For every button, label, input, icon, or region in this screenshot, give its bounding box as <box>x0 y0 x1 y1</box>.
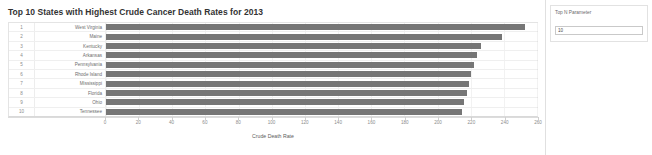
row-rank: 10 <box>9 108 35 116</box>
bar[interactable] <box>106 62 474 68</box>
row-state-label: Kentucky <box>35 42 106 50</box>
gridline <box>537 108 538 116</box>
bar-track <box>106 79 537 87</box>
bar-track <box>106 42 537 50</box>
bar-track <box>106 23 537 31</box>
gridline <box>504 98 505 106</box>
bar[interactable] <box>106 43 481 49</box>
parameter-pane: Top N Parameter <box>545 0 652 155</box>
bar-track <box>106 108 537 116</box>
row-rank: 7 <box>9 79 35 87</box>
row-bar-cell <box>106 23 537 31</box>
row-bar-cell <box>106 98 537 106</box>
top-n-parameter-label: Top N Parameter <box>555 10 643 15</box>
row-state-label: Ohio <box>35 98 106 106</box>
gridline <box>504 51 505 59</box>
gridline <box>471 108 472 116</box>
gridline <box>537 51 538 59</box>
axis-tick-label: 120 <box>301 120 309 125</box>
row-bar-cell <box>106 70 537 78</box>
gridline <box>471 89 472 97</box>
bar[interactable] <box>106 71 471 77</box>
bar-track <box>106 32 537 40</box>
row-state-label: Mississippi <box>35 79 106 87</box>
row-state-label: Maine <box>35 32 106 40</box>
row-rank: 6 <box>9 70 35 78</box>
row-state-label: Tennessee <box>35 108 106 116</box>
bar[interactable] <box>106 24 525 30</box>
top-n-parameter-card: Top N Parameter <box>550 5 648 42</box>
row-rank: 5 <box>9 61 35 69</box>
gridline <box>471 70 472 78</box>
gridline <box>504 70 505 78</box>
gridline <box>537 70 538 78</box>
bar-track <box>106 70 537 78</box>
bar-chart: 1West Virginia2Maine3Kentucky4Arkansas5P… <box>8 22 538 117</box>
row-bar-cell <box>106 108 537 116</box>
gridline <box>504 61 505 69</box>
top-n-parameter-input[interactable] <box>555 26 643 35</box>
row-rank: 9 <box>9 98 35 106</box>
row-rank: 3 <box>9 42 35 50</box>
gridline <box>504 108 505 116</box>
axis-tick-label: 60 <box>202 120 207 125</box>
gridline <box>471 98 472 106</box>
bar[interactable] <box>106 34 502 40</box>
axis-tick-label: 220 <box>468 120 476 125</box>
row-bar-cell <box>106 32 537 40</box>
table-row[interactable]: 1West Virginia <box>9 23 537 32</box>
gridline <box>537 32 538 40</box>
bar-track <box>106 89 537 97</box>
axis-tick-label: 180 <box>401 120 409 125</box>
axis-tick-label: 260 <box>534 120 542 125</box>
bar[interactable] <box>106 81 469 87</box>
row-bar-cell <box>106 79 537 87</box>
gridline <box>504 89 505 97</box>
x-axis-title: Crude Death Rate <box>8 133 538 139</box>
bar[interactable] <box>106 52 477 58</box>
axis-tick-label: 100 <box>268 120 276 125</box>
bar[interactable] <box>106 90 467 96</box>
bar[interactable] <box>106 99 464 105</box>
row-bar-cell <box>106 89 537 97</box>
row-state-label: Pennsylvania <box>35 61 106 69</box>
row-state-label: Florida <box>35 89 106 97</box>
axis-tick-label: 40 <box>169 120 174 125</box>
axis-tick-label: 20 <box>136 120 141 125</box>
gridline <box>504 79 505 87</box>
axis-tick-label: 200 <box>434 120 442 125</box>
gridline <box>537 79 538 87</box>
table-row[interactable]: 6Rhode Island <box>9 70 537 79</box>
axis-tick-label: 140 <box>334 120 342 125</box>
gridline <box>537 98 538 106</box>
table-row[interactable]: 4Arkansas <box>9 51 537 60</box>
bar-track <box>106 51 537 59</box>
table-row[interactable]: 3Kentucky <box>9 42 537 51</box>
chart-rows: 1West Virginia2Maine3Kentucky4Arkansas5P… <box>9 23 537 116</box>
gridline <box>504 42 505 50</box>
table-row[interactable]: 8Florida <box>9 89 537 98</box>
table-row[interactable]: 9Ohio <box>9 98 537 107</box>
axis-line <box>8 117 538 118</box>
bar-track <box>106 61 537 69</box>
table-row[interactable]: 5Pennsylvania <box>9 61 537 70</box>
row-state-label: Rhode Island <box>35 70 106 78</box>
axis-tick-label: 160 <box>368 120 376 125</box>
gridline <box>537 89 538 97</box>
row-state-label: Arkansas <box>35 51 106 59</box>
row-bar-cell <box>106 61 537 69</box>
bar[interactable] <box>106 109 462 115</box>
bar-track <box>106 98 537 106</box>
axis-tick-label: 80 <box>236 120 241 125</box>
row-rank: 1 <box>9 23 35 31</box>
gridline <box>504 32 505 40</box>
table-row[interactable]: 2Maine <box>9 32 537 41</box>
row-rank: 2 <box>9 32 35 40</box>
dashboard-root: Top 10 States with Highest Crude Cancer … <box>0 0 652 155</box>
table-row[interactable]: 10Tennessee <box>9 108 537 116</box>
axis-tick-label: 0 <box>104 120 107 125</box>
page-title: Top 10 States with Highest Crude Cancer … <box>8 7 263 17</box>
row-rank: 8 <box>9 89 35 97</box>
gridline <box>537 61 538 69</box>
table-row[interactable]: 7Mississippi <box>9 79 537 88</box>
